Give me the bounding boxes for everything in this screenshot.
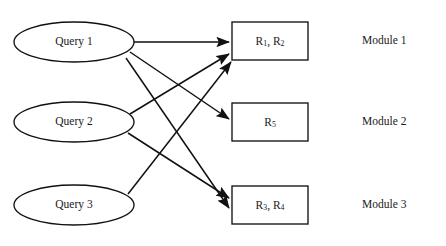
module-label-2: Module 2 (362, 115, 406, 127)
module-label-1: Module 1 (362, 34, 406, 46)
query-node-1[interactable]: Query 1 (14, 22, 134, 62)
result-boxes-group: R1, R2 R5 R3, R4 (232, 22, 308, 224)
edge-query2-box3 (128, 133, 229, 198)
result-node-3[interactable]: R3, R4 (232, 186, 308, 224)
query-nodes-group: Query 1 Query 2 Query 3 (14, 22, 134, 225)
edge-query3-box1 (128, 62, 231, 194)
query-node-2[interactable]: Query 2 (14, 102, 134, 142)
result-node-1[interactable]: R1, R2 (232, 22, 308, 60)
result-box-1-label: R1, R2 (256, 34, 285, 47)
query-node-3[interactable]: Query 3 (14, 185, 134, 225)
diagram-canvas: Query 1 Query 2 Query 3 R1, R2 R5 (0, 0, 446, 246)
query-2-label: Query 2 (55, 115, 93, 128)
query-3-label: Query 3 (55, 198, 93, 211)
query-1-label: Query 1 (55, 35, 93, 48)
edge-query1-box3 (126, 58, 229, 208)
edges-group (126, 42, 231, 208)
result-node-2[interactable]: R5 (232, 103, 308, 141)
module-label-3: Module 3 (362, 198, 406, 210)
result-box-3-label: R3, R4 (256, 198, 285, 211)
